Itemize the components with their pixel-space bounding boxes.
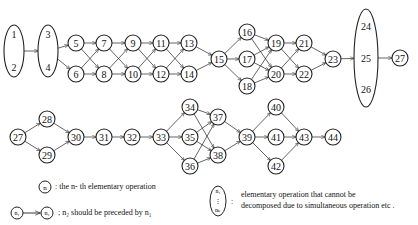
edge-29-to-30 — [54, 141, 69, 151]
node-label: 17 — [242, 54, 252, 65]
node-28: 28 — [39, 111, 55, 127]
node-label: 43 — [299, 132, 309, 143]
edge-18-to-20 — [254, 77, 268, 83]
node-label: 7 — [102, 38, 107, 49]
legend-node-description: : the n- th elementary operation — [55, 182, 156, 191]
edge-34-to-37 — [198, 110, 211, 115]
edge-14-to-15 — [196, 63, 212, 71]
node-label: 26 — [361, 84, 371, 95]
node-label: 28 — [42, 114, 52, 125]
legend-group-symbol: n₁ ⋮ nₖ — [210, 186, 226, 216]
node-40: 40 — [268, 99, 284, 115]
node-15: 15 — [211, 51, 227, 67]
node-44: 44 — [325, 129, 341, 145]
node-16: 16 — [239, 24, 255, 40]
node-label: 24 — [361, 21, 371, 32]
svg-text:nₖ: nₖ — [215, 207, 221, 213]
node-label: 44 — [328, 132, 338, 143]
node-label: 38 — [213, 150, 223, 161]
edge-15-to-16 — [225, 38, 241, 54]
node-27b: 27 — [10, 129, 26, 145]
node-8: 8 — [96, 66, 112, 82]
legend-arrow-description: ; n₂ should be preceded by n₁ — [58, 208, 152, 217]
edge-33-to-36 — [167, 143, 185, 161]
node-label: 14 — [184, 69, 194, 80]
edge-40-to-43 — [281, 113, 298, 131]
edge-39-to-42 — [253, 143, 271, 161]
edge-13-to-15 — [196, 47, 212, 55]
node-label: 35 — [185, 132, 195, 143]
edge-17-to-19 — [254, 47, 269, 55]
node-11: 11 — [153, 35, 169, 51]
node-label: 31 — [99, 132, 109, 143]
node-label: 41 — [271, 132, 281, 143]
node-34: 34 — [182, 99, 198, 115]
node-label: 11 — [156, 38, 166, 49]
edge-27b-to-29 — [25, 141, 40, 151]
node-label: 36 — [185, 161, 195, 172]
node-22: 22 — [296, 66, 312, 82]
node-label: 29 — [42, 150, 52, 161]
node-label: 10 — [128, 69, 138, 80]
node-label: 20 — [271, 69, 281, 80]
node-39: 39 — [239, 129, 255, 145]
edge-33-to-34 — [167, 113, 185, 131]
node-label: 18 — [242, 81, 252, 92]
node-label: 32 — [127, 132, 137, 143]
node-label: 33 — [156, 132, 166, 143]
node-1-2: 12 — [4, 25, 24, 77]
svg-text:n₂: n₂ — [44, 210, 49, 216]
node-14: 14 — [181, 66, 197, 82]
node-label: 16 — [242, 27, 252, 38]
node-35: 35 — [182, 129, 198, 145]
node-7: 7 — [96, 35, 112, 51]
node-10: 10 — [125, 66, 141, 82]
node-label: 39 — [242, 132, 252, 143]
operation-nodes: 1234567891011121314151617181920212223242… — [4, 9, 408, 174]
node-label: 9 — [131, 38, 136, 49]
node-label: 27 — [13, 132, 23, 143]
node-36: 36 — [182, 158, 198, 174]
node-label: 37 — [213, 112, 223, 123]
node-38: 38 — [210, 147, 226, 163]
node-13: 13 — [181, 35, 197, 51]
edge-42-to-43 — [282, 143, 299, 160]
node-30: 30 — [68, 129, 84, 145]
node-label: 3 — [46, 29, 51, 40]
node-label: 15 — [214, 54, 224, 65]
node-label: 23 — [328, 54, 338, 65]
node-label: 40 — [271, 102, 281, 113]
node-label: 19 — [271, 38, 281, 49]
node-42: 42 — [268, 158, 284, 174]
node-label: 1 — [12, 29, 17, 40]
node-33: 33 — [153, 129, 169, 145]
edge-37-to-39 — [225, 122, 241, 133]
node-43: 43 — [296, 129, 312, 145]
node-3-4: 34 — [38, 25, 58, 77]
edge-38-to-39 — [225, 141, 240, 151]
legend-group-description-line1: elementary operation that cannot be — [241, 190, 356, 199]
node-label: 13 — [184, 38, 194, 49]
node-5: 5 — [68, 35, 84, 51]
node-29: 29 — [39, 147, 55, 163]
edge-39-to-40 — [253, 113, 271, 131]
node-label: 42 — [271, 161, 281, 172]
edge-16-to-19 — [254, 35, 268, 40]
svg-text:n₁: n₁ — [215, 188, 220, 194]
node-label: 22 — [299, 69, 309, 80]
svg-text:⋮: ⋮ — [215, 198, 221, 204]
node-17: 17 — [239, 51, 255, 67]
node-label: 30 — [71, 132, 81, 143]
edge-27b-to-28 — [25, 123, 40, 133]
edge-3-4-to-6 — [58, 59, 70, 69]
edge-36-to-38 — [197, 158, 210, 163]
node-6: 6 — [68, 66, 84, 82]
node-label: 5 — [74, 38, 79, 49]
legend-group-colon: : — [231, 197, 233, 206]
node-27a: 27 — [392, 50, 408, 66]
edge-21-to-23 — [311, 47, 326, 55]
node-20: 20 — [268, 66, 284, 82]
node-label: 2 — [12, 62, 17, 73]
node-label: 27 — [395, 53, 405, 64]
node-label: 25 — [361, 53, 371, 64]
